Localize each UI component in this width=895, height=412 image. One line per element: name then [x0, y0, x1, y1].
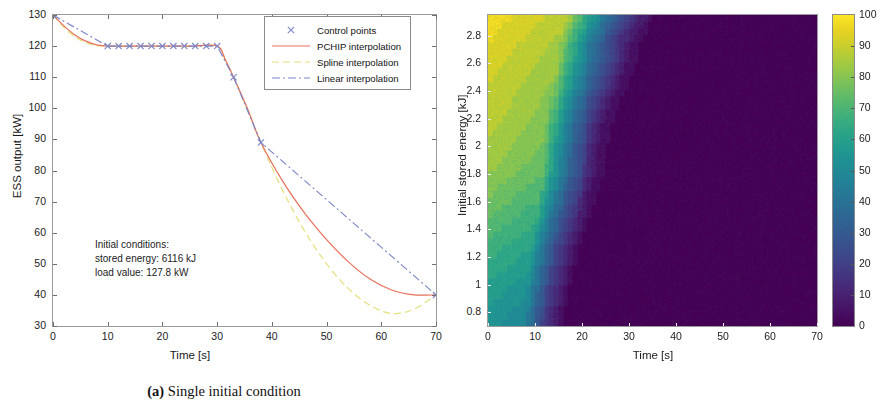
legend-item-3[interactable]: Linear interpolation — [269, 70, 406, 86]
x-tick-mark-b — [535, 323, 536, 326]
colorbar-tick-label: 10 — [859, 288, 871, 300]
x-tick-mark-a — [272, 322, 273, 326]
y-tick-mark-b — [488, 63, 491, 64]
legend-sample-dashdot — [269, 71, 313, 85]
panel-b-heatmap: 0.811.21.41.61.822.22.42.62.8 0102030405… — [448, 0, 895, 412]
x-tick-label-b: 30 — [614, 330, 644, 342]
x-tick-mark-b — [629, 323, 630, 326]
annotation-line-2: stored energy: 6116 kJ — [95, 252, 196, 266]
colorbar-tick-label: 20 — [859, 257, 871, 269]
x-tick-mark-a — [53, 322, 54, 326]
x-tick-label-b: 10 — [520, 330, 550, 342]
colorbar-tick-mark — [851, 233, 854, 234]
y-tick-mark-a — [53, 233, 57, 234]
y-tick-mark-right-a — [432, 202, 436, 203]
y-axis-title-b: Initial stored energy [kJ] — [456, 96, 468, 216]
legend-box-a: Control pointsPCHIP interpolationSpline … — [264, 16, 411, 90]
control-point-marker — [258, 139, 264, 145]
y-tick-mark-b — [488, 146, 491, 147]
x-tick-mark-b — [488, 323, 489, 326]
colorbar-tick-mark — [851, 77, 854, 78]
x-tick-mark-b — [582, 323, 583, 326]
x-tick-mark-a — [162, 322, 163, 326]
y-tick-mark-right-a — [432, 139, 436, 140]
y-tick-mark-right-a — [432, 295, 436, 296]
x-tick-label-b: 60 — [755, 330, 785, 342]
x-tick-label-a: 50 — [312, 330, 342, 342]
colorbar-tick-mark — [851, 108, 854, 109]
y-tick-mark-right-a — [432, 233, 436, 234]
y-tick-mark-b — [488, 119, 491, 120]
y-tick-mark-right-a — [432, 326, 436, 327]
y-tick-mark-a — [53, 326, 57, 327]
y-tick-mark-a — [53, 295, 57, 296]
colorbar-tick-mark — [851, 171, 854, 172]
legend-label: Spline interpolation — [313, 57, 399, 68]
annotation-line-3: load value: 127.8 kW — [95, 266, 196, 280]
colorbar-tick-mark — [851, 295, 854, 296]
x-tick-label-a: 70 — [421, 330, 451, 342]
y-tick-label-a: 50 — [8, 257, 46, 269]
x-tick-mark-b — [817, 323, 818, 326]
y-tick-mark-b — [488, 91, 491, 92]
colorbar-tick-mark — [851, 264, 854, 265]
y-tick-mark-b — [488, 174, 491, 175]
y-tick-mark-b — [488, 229, 491, 230]
x-tick-mark-top-a — [217, 15, 218, 19]
legend-sample-solid — [269, 39, 313, 53]
y-tick-mark-right-a — [432, 264, 436, 265]
legend-item-1[interactable]: PCHIP interpolation — [269, 38, 406, 54]
x-tick-label-a: 30 — [202, 330, 232, 342]
y-tick-mark-right-a — [432, 46, 436, 47]
annotation-line-1: Initial conditions: — [95, 238, 196, 252]
colorbar-tick-label: 100 — [859, 8, 877, 20]
legend-item-2[interactable]: Spline interpolation — [269, 54, 406, 70]
x-tick-label-b: 50 — [708, 330, 738, 342]
colorbar-tick-label: 40 — [859, 195, 871, 207]
y-tick-mark-a — [53, 202, 57, 203]
colorbar-tick-label: 0 — [859, 319, 865, 331]
x-tick-label-a: 0 — [38, 330, 68, 342]
y-tick-mark-a — [53, 264, 57, 265]
x-axis-title-a: Time [s] — [170, 349, 210, 361]
colorbar-tick-label: 60 — [859, 132, 871, 144]
x-tick-mark-a — [108, 322, 109, 326]
y-tick-mark-b — [488, 312, 491, 313]
control-point-marker — [230, 74, 236, 80]
y-tick-mark-b — [488, 36, 491, 37]
y-tick-mark-a — [53, 139, 57, 140]
x-tick-mark-b — [723, 323, 724, 326]
x-tick-label-a: 40 — [257, 330, 287, 342]
x-tick-label-b: 20 — [567, 330, 597, 342]
x-tick-label-a: 10 — [93, 330, 123, 342]
legend-item-0[interactable]: Control points — [269, 22, 406, 38]
legend-label: Control points — [313, 25, 376, 36]
y-tick-mark-b — [488, 202, 491, 203]
x-tick-mark-b — [676, 323, 677, 326]
y-tick-label-a: 60 — [8, 226, 46, 238]
x-tick-mark-top-a — [162, 15, 163, 19]
x-tick-label-b: 70 — [802, 330, 832, 342]
x-tick-label-b: 0 — [473, 330, 503, 342]
legend-sample-dashed — [269, 55, 313, 69]
y-tick-label-b: 2.6 — [448, 56, 481, 68]
x-tick-mark-b — [770, 323, 771, 326]
heatmap-canvas — [488, 15, 817, 326]
legend-sample-marker-x — [269, 23, 313, 37]
y-tick-mark-b — [488, 257, 491, 258]
x-tick-mark-a — [381, 322, 382, 326]
x-tick-mark-top-a — [53, 15, 54, 19]
x-tick-label-a: 20 — [147, 330, 177, 342]
colorbar-tick-mark — [851, 202, 854, 203]
plot-area-b — [487, 14, 818, 327]
y-tick-label-b: 1.2 — [448, 250, 481, 262]
y-tick-label-a: 120 — [8, 39, 46, 51]
x-tick-label-b: 40 — [661, 330, 691, 342]
y-tick-mark-a — [53, 46, 57, 47]
x-tick-mark-top-a — [436, 15, 437, 19]
y-tick-label-b: 2.8 — [448, 29, 481, 41]
colorbar-tick-label: 80 — [859, 70, 871, 82]
y-tick-label-b: 1.4 — [448, 222, 481, 234]
figure-root: 30405060708090100110120130 0102030405060… — [0, 0, 895, 412]
caption-panel-a: (a) Single initial condition — [147, 383, 300, 400]
